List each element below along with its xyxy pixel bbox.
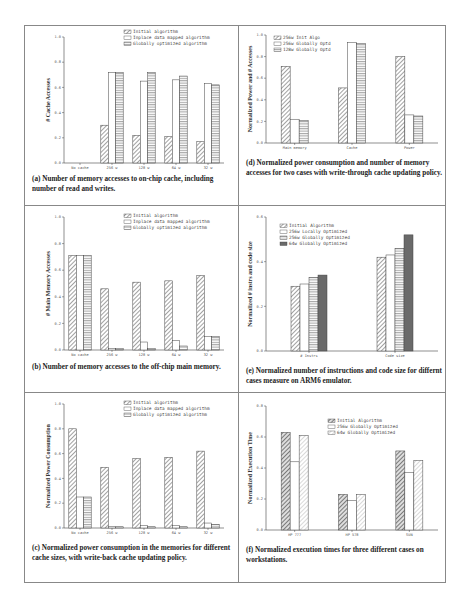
caption-b-label: (b) <box>32 363 41 371</box>
caption-b-text: Number of memory accesses to the off-chi… <box>43 363 221 371</box>
chart-d-power-and-accesses: 0.00.20.40.60.81.0Normalized Power and #… <box>238 25 446 205</box>
bar <box>180 76 187 163</box>
legend-label: 256w Globally Optimized <box>337 424 398 429</box>
chart-f-execution-time: 0.00.20.40.60.8Normalized Execution Time… <box>238 392 446 583</box>
bar <box>396 57 405 143</box>
y-tick-label: 0.0 <box>55 526 62 530</box>
bar <box>101 289 108 350</box>
caption-f-text: Normalized execution times for three dif… <box>246 546 424 564</box>
bar <box>133 135 140 163</box>
y-tick-label: 0.8 <box>55 60 62 64</box>
x-tick-label: 256 w <box>107 531 119 535</box>
y-axis-label: Normalized Power Consumption <box>45 423 51 508</box>
x-tick-label: 64 w <box>172 531 181 535</box>
chart-a-cache-accesses: 0.00.20.40.60.81.0# Cache AccessesNo cac… <box>24 25 238 205</box>
bar <box>204 337 211 350</box>
legend-swatch <box>124 220 131 224</box>
y-tick-label: 0.6 <box>257 76 264 80</box>
bar <box>357 44 366 143</box>
x-tick-label: 256 w <box>107 166 119 170</box>
x-tick-label: 128 w <box>139 353 151 357</box>
bar <box>148 349 155 350</box>
legend-swatch <box>280 224 287 228</box>
y-tick-label: 0.4 <box>257 260 264 264</box>
y-tick-label: 1.0 <box>257 33 264 37</box>
x-tick-label: No cache <box>71 353 88 357</box>
caption-e-text: Normalized number of instructions and co… <box>246 367 442 385</box>
y-tick-label: 0.6 <box>55 86 62 90</box>
y-axis-label: Normalized # instrs and code size <box>247 241 253 327</box>
y-tick-label: 0.4 <box>257 466 264 470</box>
bar <box>148 527 155 528</box>
x-tick-label: 64 w <box>172 166 181 170</box>
bar <box>76 256 83 350</box>
legend-label: Globally optimized algorithm <box>133 41 207 46</box>
bar <box>290 119 299 143</box>
caption-c-text: Normalized power consumption in the memo… <box>32 544 230 562</box>
caption-f: (f) Normalized execution times for three… <box>246 546 442 565</box>
legend-swatch <box>328 419 335 423</box>
bar <box>84 256 91 350</box>
x-tick-label: 128 w <box>139 531 151 535</box>
chart-d-plot: 0.00.20.40.60.81.0Normalized Power and #… <box>238 25 446 153</box>
y-tick-label: 0.2 <box>257 497 264 501</box>
legend-swatch <box>274 48 281 52</box>
x-tick-label: Main memory <box>283 146 308 150</box>
legend-swatch <box>124 401 131 405</box>
legend-swatch <box>124 36 131 40</box>
bar <box>414 116 423 143</box>
bar <box>101 125 108 163</box>
legend-label: 128w Globally Optd <box>283 47 331 52</box>
y-tick-label: 0.4 <box>55 111 62 115</box>
caption-a: (a) Number of memory accesses to on-chip… <box>32 175 232 194</box>
y-tick-label: 0.6 <box>55 452 62 456</box>
chart-b-plot: 0.00.20.40.60.81.0# Main Memory Accesses… <box>24 205 238 361</box>
legend-swatch <box>124 413 131 417</box>
bar <box>108 72 115 163</box>
legend-swatch <box>124 42 131 46</box>
y-axis-label: # Cache Accesses <box>45 78 51 122</box>
bar <box>377 257 386 351</box>
x-tick-label: Code size <box>385 354 404 358</box>
bar <box>281 432 290 530</box>
legend-label: 256w Locally Optimized <box>289 229 348 234</box>
legend-swatch <box>124 214 131 218</box>
y-tick-label: 0.8 <box>55 427 62 431</box>
legend-swatch <box>328 431 335 435</box>
y-tick-label: 0.2 <box>55 322 62 326</box>
bar <box>116 527 123 528</box>
bar <box>348 43 357 143</box>
x-tick-label: 32 w <box>204 531 213 535</box>
bar <box>386 255 395 351</box>
y-axis-label: # Main Memory Accesses <box>45 250 51 315</box>
x-tick-label: Power <box>404 146 416 150</box>
bar <box>339 88 348 143</box>
x-tick-label: No cache <box>71 166 88 170</box>
y-tick-label: 0.2 <box>55 501 62 505</box>
bar <box>140 342 147 350</box>
bar <box>300 284 309 351</box>
x-tick-label: HP 578 <box>346 533 359 537</box>
x-tick-label: 64 w <box>172 353 181 357</box>
bar <box>197 451 204 528</box>
bar <box>290 462 299 530</box>
bar <box>133 282 140 350</box>
bar <box>180 346 187 350</box>
legend-label: Initial algorithm <box>133 213 178 218</box>
legend-label: Inplace data mapped algorithm <box>133 35 210 40</box>
x-tick-label: HP 777 <box>288 533 301 537</box>
bar <box>172 341 179 350</box>
y-tick-label: 0.4 <box>55 477 62 481</box>
x-tick-label: 32 w <box>204 166 213 170</box>
y-tick-label: 0.2 <box>257 120 264 124</box>
chart-b-main-memory-accesses: 0.00.20.40.60.81.0# Main Memory Accesses… <box>24 205 238 392</box>
legend-label: 256w Init Algo <box>283 35 320 40</box>
bar <box>395 248 404 351</box>
caption-d-text: Normalized power consumption and number … <box>246 159 442 177</box>
y-tick-label: 0.6 <box>257 215 264 219</box>
bar <box>140 526 147 528</box>
bar <box>204 84 211 163</box>
bar <box>133 459 140 528</box>
legend-swatch <box>280 236 287 240</box>
caption-e: (e) Normalized number of instructions an… <box>246 367 442 386</box>
